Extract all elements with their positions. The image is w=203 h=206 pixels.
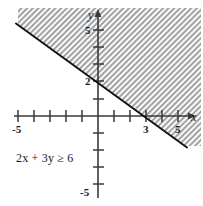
x-tick-label-minus5: -5 [12, 124, 21, 135]
y-tick-label-minus5: -5 [80, 187, 89, 198]
x-tick-label-3: 3 [143, 124, 149, 135]
y-tick-label-2: 2 [85, 76, 91, 87]
x-tick-label-5: 5 [175, 124, 181, 135]
inequality-graph-figure: y x 5 2 -5 -5 3 5 2x + 3y ≥ 6 [0, 0, 203, 206]
y-axis-label: y [88, 9, 93, 21]
coordinate-plane-svg [0, 0, 203, 206]
inequality-annotation: 2x + 3y ≥ 6 [16, 152, 74, 164]
y-tick-label-5: 5 [85, 25, 91, 36]
x-axis-label: x [191, 111, 196, 123]
shaded-solution-region [18, 8, 201, 146]
